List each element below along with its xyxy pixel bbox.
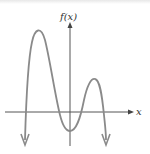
y-axis-label: f(x) <box>59 11 77 22</box>
function-graph: f(x) x <box>0 0 150 154</box>
x-axis-arrow-icon <box>128 110 134 115</box>
x-axis-label: x <box>136 106 142 117</box>
function-curve <box>25 30 106 140</box>
y-axis-arrow-icon <box>68 22 73 28</box>
